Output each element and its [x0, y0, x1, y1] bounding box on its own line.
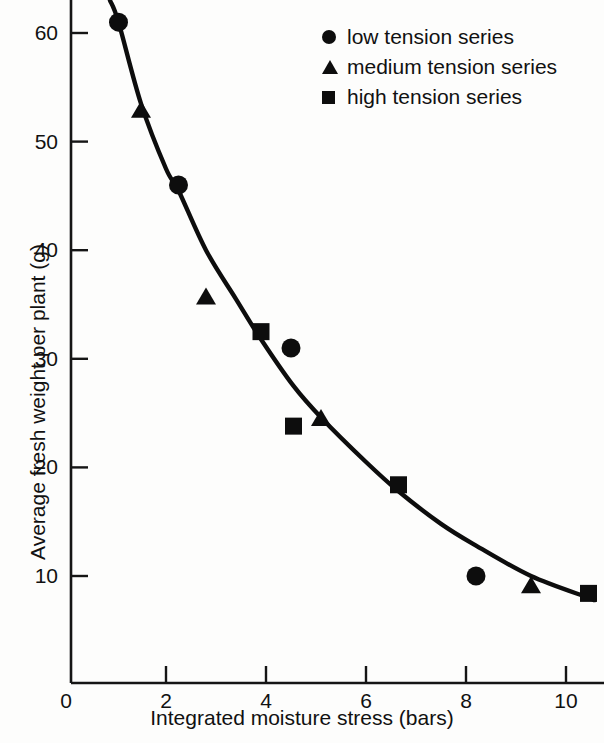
data-point-low-tension-series-1 [169, 176, 188, 195]
y-tick-label-50: 50 [8, 130, 58, 154]
legend-label-square: high tension series [347, 85, 522, 109]
data-point-high-tension-series-0 [253, 323, 270, 340]
triangle-marker-icon [322, 60, 344, 74]
y-tick-label-60: 60 [8, 21, 58, 45]
triangle-glyph [322, 60, 338, 74]
data-point-high-tension-series-1 [285, 418, 302, 435]
chart-figure: 1020304050600246810 Integrated moisture … [0, 0, 604, 743]
circle-marker-icon [322, 30, 344, 44]
data-point-high-tension-series-3 [580, 585, 597, 602]
square-marker-icon [322, 91, 344, 104]
y-axis-ticks [71, 33, 88, 576]
data-point-low-tension-series-2 [282, 338, 301, 357]
legend-item-square: high tension series [322, 82, 557, 112]
data-point-medium-tension-series-0 [131, 101, 151, 118]
circle-glyph [322, 30, 336, 44]
y-tick-label-10: 10 [8, 564, 58, 588]
square-glyph [322, 91, 335, 104]
legend-item-triangle: medium tension series [322, 52, 557, 82]
legend-label-triangle: medium tension series [347, 55, 557, 79]
x-axis-ticks [166, 666, 566, 683]
x-axis-title: Integrated moisture stress (bars) [0, 706, 604, 730]
data-point-high-tension-series-2 [390, 476, 407, 493]
legend-item-circle: low tension series [322, 22, 557, 52]
data-point-low-tension-series-3 [467, 567, 486, 586]
legend-label-circle: low tension series [347, 25, 514, 49]
data-point-medium-tension-series-1 [196, 287, 216, 304]
data-point-low-tension-series-0 [109, 13, 128, 32]
chart-legend: low tension seriesmedium tension seriesh… [322, 22, 557, 112]
y-axis-title: Average fresh weight per plant (g) [26, 244, 50, 560]
